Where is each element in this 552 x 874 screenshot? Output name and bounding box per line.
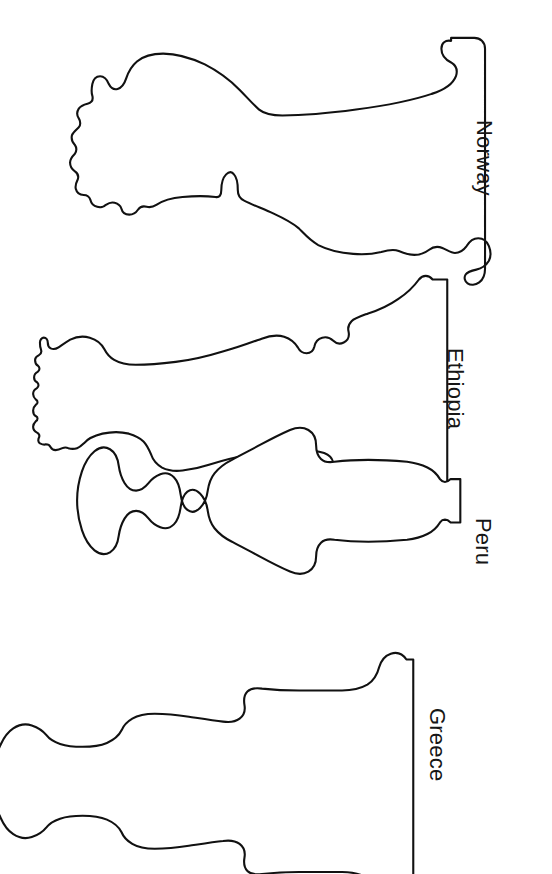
vase-item-peru: Peru — [0, 0, 552, 874]
vase-label-norway: Norway — [471, 120, 497, 196]
vase-outline-icon-ethiopia — [38, 264, 458, 454]
worksheet-page: Norway Ethiopia Peru Greece — [0, 0, 552, 874]
vase-label-peru: Peru — [470, 518, 496, 565]
vase-item-norway: Norway — [0, 0, 552, 874]
vase-item-ethiopia: Ethiopia — [0, 0, 552, 874]
vase-item-greece: Greece — [0, 0, 552, 874]
vase-outline-icon-norway — [40, 33, 486, 249]
vase-outline-icon-peru — [170, 482, 470, 638]
vase-label-greece: Greece — [424, 708, 450, 781]
vase-outline-icon-greece — [24, 642, 424, 840]
vase-label-ethiopia: Ethiopia — [442, 348, 468, 429]
